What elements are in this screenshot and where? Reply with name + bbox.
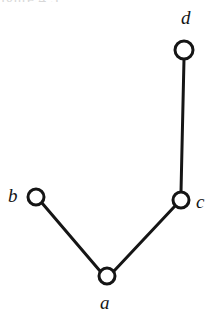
graph-node-d: [175, 41, 193, 59]
graph-node-label-d: d: [181, 8, 191, 27]
graph-edge-d-c: [181, 59, 184, 192]
graph-edge-c-a: [114, 206, 175, 271]
graph-node-b: [28, 189, 44, 205]
graph-edge-a-b: [42, 203, 100, 271]
graph-node-label-c: c: [196, 192, 204, 211]
figure-container: igure 4.3 dcba: [0, 0, 214, 321]
graph-node-c: [173, 192, 189, 208]
edge-layer: [42, 59, 184, 271]
graph-node-a: [99, 268, 115, 284]
graph-canvas: [0, 0, 214, 321]
graph-node-label-b: b: [8, 186, 18, 205]
node-layer: [28, 41, 193, 284]
graph-node-label-a: a: [100, 293, 110, 312]
